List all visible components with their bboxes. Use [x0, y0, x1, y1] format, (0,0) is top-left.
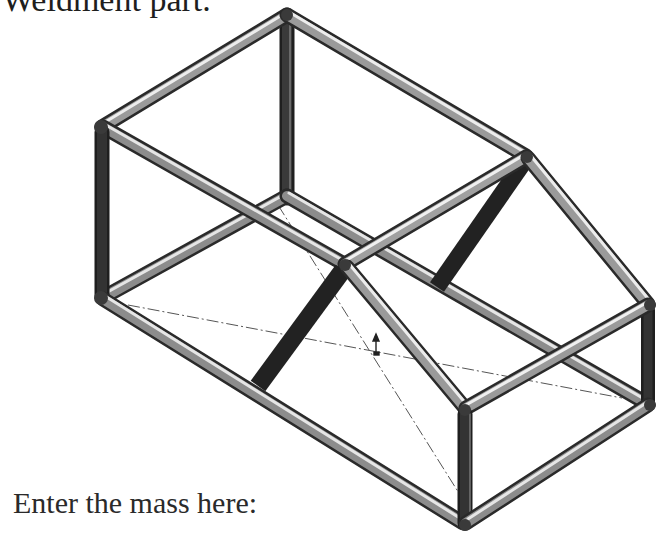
- weldment-frame-figure: [0, 0, 668, 548]
- origin-triad-icon: [373, 334, 379, 355]
- mass-prompt-label: Enter the mass here:: [13, 485, 257, 521]
- tubes-mid: [102, 12, 650, 523]
